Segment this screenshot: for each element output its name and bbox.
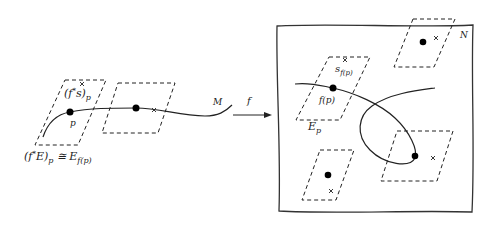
label-N: N (459, 30, 469, 40)
point-bottom-left (325, 172, 332, 179)
manifold-N-boundary (277, 25, 473, 212)
section-mark-top-right (434, 36, 438, 40)
point-top-right (420, 39, 427, 46)
point-bottom-right (412, 153, 419, 160)
section-value-mark-p (80, 82, 84, 86)
left-manifold-M: (f*s)p p M (f*E)p ≅ Ef(p) (24, 80, 232, 165)
label-Ep: Ep (307, 120, 321, 135)
section-mark-bottom-right (431, 156, 435, 160)
label-pullback-fiber: (f*E)p ≅ Ef(p) (24, 150, 92, 165)
pullback-diagram: (f*s)p p M (f*E)p ≅ Ef(p) f N sf(p) f(p)… (0, 0, 495, 227)
label-section-s: sf(p) (335, 63, 353, 77)
section-mark-bottom-left (329, 189, 333, 193)
right-manifold-N: N sf(p) f(p) Ep (277, 19, 473, 212)
label-M: M (212, 97, 223, 107)
arrow-head-icon (264, 112, 272, 118)
label-pullback-section: (f*s)p (64, 87, 91, 102)
point-fp (330, 85, 337, 92)
map-arrow-f: f (233, 95, 272, 118)
section-mark-sfp (343, 58, 347, 62)
label-p: p (70, 118, 76, 128)
point-second (133, 105, 140, 112)
label-f: f (246, 95, 253, 106)
point-p (67, 109, 74, 116)
label-fp: f(p) (318, 95, 336, 105)
